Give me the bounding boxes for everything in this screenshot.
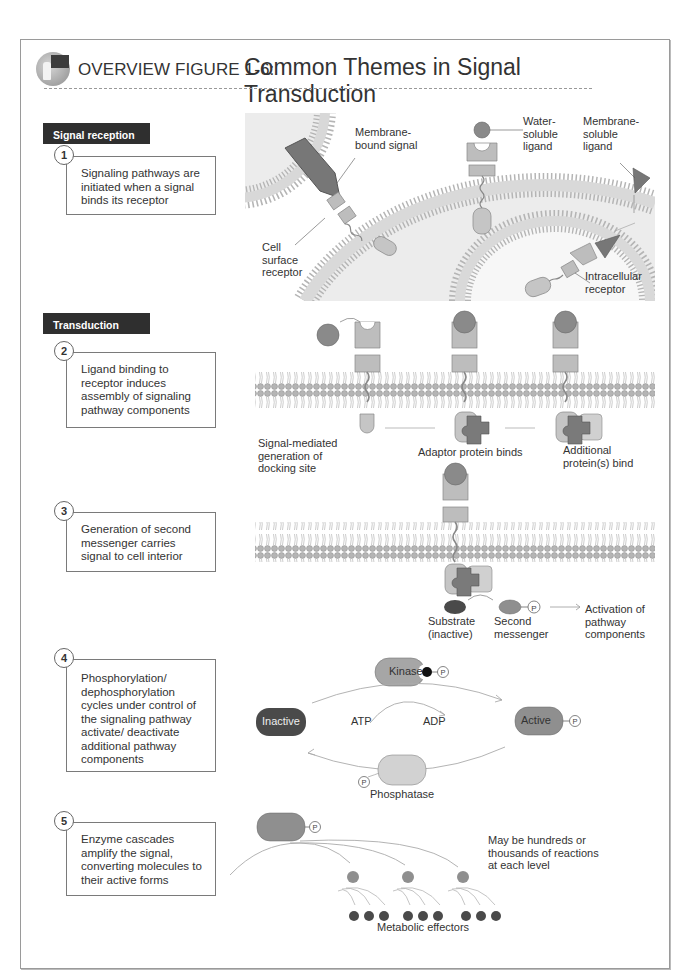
panel-enzyme-cascade: P xyxy=(230,805,670,965)
label-inactive: Inactive xyxy=(262,715,300,728)
step-number: 2 xyxy=(54,341,74,361)
label-substrate: Substrate (inactive) xyxy=(428,615,475,640)
svg-text:P: P xyxy=(572,717,577,726)
step-3-box: 3 Generation of second messenger carries… xyxy=(66,512,216,572)
step-number: 3 xyxy=(54,501,74,521)
ligand-icon xyxy=(317,324,339,346)
level-2-enzyme xyxy=(402,871,414,883)
teacher-at-board-icon xyxy=(36,52,70,86)
label-adaptor-binds: Adaptor protein binds xyxy=(418,446,523,459)
panel-phosphorylation-cycle: P P P xyxy=(250,655,670,795)
enzyme-icon xyxy=(257,813,305,841)
step-text: Phosphorylation/ dephosphorylation cycle… xyxy=(81,672,207,767)
step-number: 4 xyxy=(54,648,74,668)
label-docking-site: Signal-mediated generation of docking si… xyxy=(258,437,338,475)
svg-text:P: P xyxy=(440,668,445,677)
label-additional-proteins: Additional protein(s) bind xyxy=(563,444,633,469)
step-text: Ligand binding to receptor induces assem… xyxy=(81,363,207,417)
step-2-box: 2 Ligand binding to receptor induces ass… xyxy=(66,352,216,428)
label-atp: ATP xyxy=(351,715,372,728)
step-number: 1 xyxy=(54,145,74,165)
header-divider xyxy=(44,88,592,89)
label-adp: ADP xyxy=(423,715,446,728)
figure-header: OVERVIEW FIGURE 1-6: Common Themes in Si… xyxy=(36,52,636,92)
label-second-messenger: Second messenger xyxy=(494,615,548,640)
panel-second-messenger: P xyxy=(250,472,670,612)
section-signal-reception: Signal reception xyxy=(43,123,150,144)
step-text: Enzyme cascades amplify the signal, conv… xyxy=(81,833,207,887)
conversion-arrow-icon xyxy=(468,595,493,600)
label-phosphatase: Phosphatase xyxy=(370,788,434,801)
metabolic-effectors xyxy=(349,911,501,921)
label-kinase: Kinase xyxy=(389,665,423,678)
lipid-bilayer xyxy=(255,372,655,412)
panel-docking xyxy=(250,310,670,420)
label-cell-surface-receptor: Cell surface receptor xyxy=(262,241,302,279)
step-1-box: 1 Signaling pathways are initiated when … xyxy=(66,156,216,215)
substrate-icon xyxy=(444,600,466,614)
svg-text:P: P xyxy=(531,604,536,613)
level-2-enzyme xyxy=(347,871,359,883)
second-messenger-icon xyxy=(499,600,521,614)
step-text: Signaling pathways are initiated when a … xyxy=(81,167,207,208)
person-icon xyxy=(43,62,51,80)
section-transduction: Transduction xyxy=(43,313,150,334)
label-water-soluble-ligand: Water- soluble ligand xyxy=(523,115,558,153)
label-metabolic-effectors: Metabolic effectors xyxy=(377,921,469,934)
step-5-box: 5 Enzyme cascades amplify the signal, co… xyxy=(66,822,216,896)
label-membrane-bound-signal: Membrane- bound signal xyxy=(355,126,417,151)
level-2-enzyme xyxy=(457,871,469,883)
figure-title: Common Themes in Signal Transduction xyxy=(244,54,636,108)
svg-text:P: P xyxy=(361,778,366,787)
svg-text:P: P xyxy=(312,823,317,832)
step-number: 5 xyxy=(54,811,74,831)
label-cascade-note: May be hundreds or thousands of reaction… xyxy=(488,834,599,872)
phosphatase-icon xyxy=(378,755,426,785)
step-text: Generation of second messenger carries s… xyxy=(81,523,207,564)
label-active: Active xyxy=(521,714,551,727)
label-activation: Activation of pathway components xyxy=(585,603,645,641)
step-4-box: 4 Phosphorylation/ dephosphorylation cyc… xyxy=(66,659,216,772)
label-membrane-soluble-ligand: Membrane- soluble ligand xyxy=(583,115,639,153)
blackboard-icon xyxy=(51,55,69,68)
label-intracellular-receptor: Intracellular receptor xyxy=(585,270,642,295)
